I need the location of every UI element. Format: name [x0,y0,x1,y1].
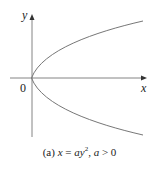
caption-condition-rest: > 0 [99,146,116,158]
figure-caption: (a) x = ay2, a > 0 [0,145,159,158]
caption-eq: = [63,146,75,158]
x-axis-arrow-icon [141,76,147,81]
caption-rhs: ay [74,146,84,158]
caption-tag: (a) [43,146,55,158]
y-axis-arrow-icon [30,14,35,20]
origin-label: 0 [20,81,26,95]
y-axis-label: y [21,8,28,22]
x-axis-label: x [140,81,147,95]
